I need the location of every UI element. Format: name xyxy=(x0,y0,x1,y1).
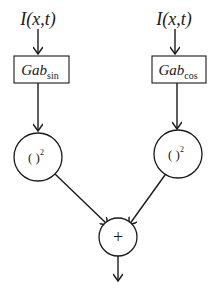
plus-icon: + xyxy=(113,227,123,247)
sum-node: + xyxy=(99,218,137,281)
energy-model-diagram: I(x,t) Gabsin ( )2 I(x,t) Gabcos ( )2 + xyxy=(0,0,215,297)
right-square-to-sum-arrow xyxy=(129,175,165,225)
left-branch: I(x,t) Gabsin ( )2 xyxy=(14,9,108,225)
left-input-label: I(x,t) xyxy=(19,9,55,30)
right-branch: I(x,t) Gabcos ( )2 xyxy=(129,9,206,225)
left-square-to-sum-arrow xyxy=(55,174,108,225)
right-input-label: I(x,t) xyxy=(155,9,191,30)
